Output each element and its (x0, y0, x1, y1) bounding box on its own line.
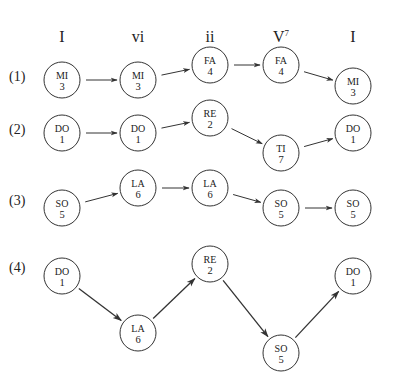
chord-header: V7 (273, 28, 290, 45)
chord-header: vi (132, 28, 145, 45)
solfege-syllable: LA (131, 323, 145, 334)
transition-arrow (153, 279, 195, 319)
solfege-syllable: RE (204, 254, 217, 265)
solfege-syllable: MI (347, 76, 359, 87)
note-node: SO5 (44, 190, 80, 226)
transition-arrow (79, 289, 121, 321)
transition-arrow (223, 280, 268, 336)
note-node: SO5 (335, 190, 371, 226)
solfege-syllable: DO (346, 266, 360, 277)
note-node: MI3 (120, 62, 156, 98)
solfege-syllable: DO (55, 123, 69, 134)
solfege-syllable: MI (132, 70, 144, 81)
note-node: LA6 (192, 170, 228, 206)
note-node: DO1 (44, 115, 80, 151)
progression-row: (3)SO5LA6LA6SO5SO5 (9, 170, 371, 226)
scale-degree: 6 (207, 189, 212, 200)
scale-degree: 5 (278, 209, 283, 220)
note-node: LA6 (120, 315, 156, 351)
solfege-syllable: FA (275, 55, 288, 66)
transition-arrow (85, 193, 117, 202)
scale-degree: 5 (278, 354, 283, 365)
scale-degree: 2 (207, 119, 212, 130)
progression-row: (1)MI3MI3FA4FA4MI3 (9, 47, 371, 104)
transition-arrow (161, 122, 189, 128)
note-node: SO5 (263, 335, 299, 371)
note-node: TI7 (263, 135, 299, 171)
scale-degree: 5 (59, 209, 64, 220)
solfege-syllable: SO (347, 198, 360, 209)
scale-degree: 1 (135, 134, 140, 145)
row-label: (2) (9, 122, 26, 138)
transition-arrow (232, 129, 263, 144)
scale-degree: 5 (350, 209, 355, 220)
solfege-syllable: FA (204, 55, 217, 66)
scale-degree: 2 (207, 265, 212, 276)
solfege-syllable: LA (203, 178, 217, 189)
solfege-syllable: DO (55, 266, 69, 277)
note-node: SO5 (263, 190, 299, 226)
row-label: (3) (9, 193, 26, 209)
solfege-syllable: SO (275, 198, 288, 209)
chord-headers: IviiiV7I (59, 28, 355, 45)
solfege-syllable: DO (131, 123, 145, 134)
note-node: RE2 (192, 246, 228, 282)
scale-degree: 1 (350, 277, 355, 288)
chord-header: ii (206, 28, 215, 45)
progression-row: (4)DO1LA6RE2SO5DO1 (9, 246, 371, 371)
note-node: RE2 (192, 100, 228, 136)
progression-diagram: IviiiV7I (1)MI3MI3FA4FA4MI3(2)DO1DO1RE2T… (0, 0, 395, 389)
note-node: FA4 (192, 47, 228, 83)
solfege-syllable: SO (275, 343, 288, 354)
transition-arrow (233, 195, 261, 203)
progression-rows: (1)MI3MI3FA4FA4MI3(2)DO1DO1RE2TI7DO1(3)S… (9, 47, 371, 371)
chord-header-superscript: 7 (285, 28, 290, 38)
solfege-syllable: TI (276, 143, 285, 154)
chord-header: I (59, 28, 64, 45)
scale-degree: 7 (278, 154, 283, 165)
chord-header: I (350, 28, 355, 45)
scale-degree: 3 (350, 87, 355, 98)
solfege-syllable: DO (346, 123, 360, 134)
note-node: MI3 (44, 62, 80, 98)
scale-degree: 1 (59, 134, 64, 145)
scale-degree: 1 (350, 134, 355, 145)
note-node: DO1 (120, 115, 156, 151)
note-node: LA6 (120, 170, 156, 206)
scale-degree: 6 (135, 189, 140, 200)
transition-arrow (304, 72, 333, 80)
transition-arrow (295, 291, 338, 337)
solfege-syllable: LA (131, 178, 145, 189)
scale-degree: 1 (59, 277, 64, 288)
scale-degree: 4 (207, 66, 213, 77)
note-node: DO1 (335, 258, 371, 294)
scale-degree: 4 (278, 66, 284, 77)
scale-degree: 6 (135, 334, 140, 345)
row-label: (1) (9, 69, 26, 85)
solfege-syllable: SO (56, 198, 69, 209)
solfege-syllable: MI (56, 70, 68, 81)
progression-row: (2)DO1DO1RE2TI7DO1 (9, 100, 371, 171)
row-label: (4) (9, 260, 26, 276)
note-node: DO1 (44, 258, 80, 294)
solfege-syllable: RE (204, 108, 217, 119)
transition-arrow (161, 69, 189, 75)
transition-arrow (304, 139, 333, 147)
scale-degree: 3 (59, 81, 64, 92)
note-node: MI3 (335, 68, 371, 104)
note-node: FA4 (263, 47, 299, 83)
scale-degree: 3 (135, 81, 140, 92)
note-node: DO1 (335, 115, 371, 151)
